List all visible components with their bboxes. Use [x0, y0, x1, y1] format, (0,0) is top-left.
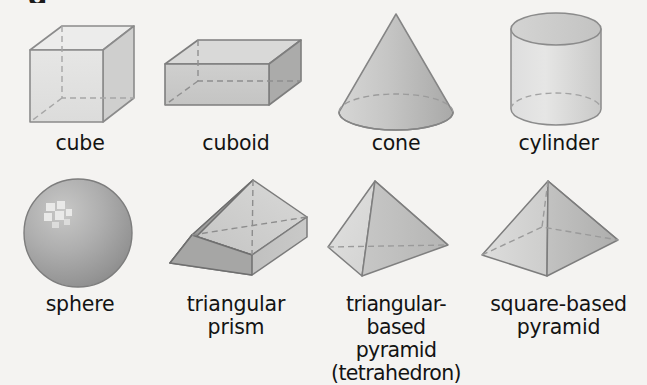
shape-cell-triangular-based-pyramid: triangular-based pyramid (tetrahedron): [320, 175, 472, 368]
triangular-prism-figure: [152, 175, 320, 295]
shape-label-cylinder: cylinder: [470, 132, 647, 155]
shape-label-cone: cone: [320, 132, 472, 155]
cylinder-figure: [470, 8, 647, 133]
shape-label-cuboid: cuboid: [152, 132, 320, 155]
shape-cell-cube: cube: [0, 8, 160, 168]
shape-cell-cone: cone: [320, 8, 472, 168]
cube-figure: [0, 8, 160, 133]
shape-cell-triangular-prism: triangular prism: [152, 175, 320, 368]
tetrahedron-figure: [320, 175, 472, 295]
shape-cell-cylinder: cylinder: [470, 8, 647, 168]
shape-cell-cuboid: cuboid: [152, 8, 320, 168]
shape-cell-square-based-pyramid: square-based pyramid: [470, 175, 647, 368]
shape-cell-sphere: sphere: [0, 175, 160, 368]
shape-label-triangular-prism: triangular prism: [152, 293, 320, 339]
cuboid-figure: [152, 8, 320, 133]
shape-label-cube: cube: [0, 132, 160, 155]
shape-label-square-based-pyramid: square-based pyramid: [470, 293, 647, 339]
shape-label-triangular-based-pyramid: triangular-based pyramid (tetrahedron): [320, 293, 472, 385]
sphere-figure: [0, 175, 160, 295]
cone-figure: [320, 8, 472, 133]
shape-label-sphere: sphere: [0, 293, 160, 316]
square-pyramid-figure: [470, 175, 647, 295]
